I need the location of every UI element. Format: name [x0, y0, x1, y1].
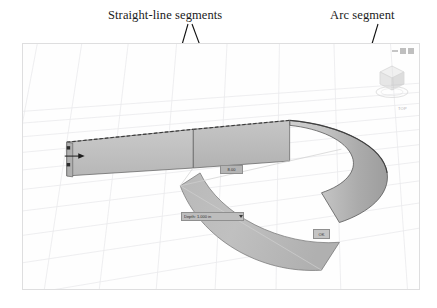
straight-segment-wall-2[interactable] — [193, 120, 290, 168]
view-cube-face-label: TOP — [398, 106, 407, 111]
view-cube-icon[interactable] — [371, 58, 413, 104]
callout-label-arc-segment: Arc segment — [330, 8, 395, 23]
dimension-chip-radius[interactable]: 8.00 — [220, 165, 243, 174]
close-icon[interactable] — [408, 48, 414, 54]
ring-inner-face[interactable] — [180, 173, 339, 271]
minimize-icon[interactable] — [392, 50, 398, 52]
viewport-window-controls[interactable] — [392, 48, 414, 54]
cad-viewport[interactable]: TOP 8.00 Depth: 1.000 in OK — [22, 43, 420, 290]
dimension-input-value: Depth: 1.000 in — [184, 213, 237, 220]
straight-segment-wall-1[interactable] — [67, 129, 193, 177]
dimension-chip-confirm[interactable]: OK — [313, 229, 330, 239]
dimension-input-depth[interactable]: Depth: 1.000 in — [181, 212, 244, 221]
callout-label-straight-line-segments: Straight-line segments — [108, 8, 222, 23]
restore-icon[interactable] — [400, 48, 406, 54]
chevron-down-icon[interactable] — [239, 215, 243, 218]
view-cube[interactable] — [371, 58, 413, 104]
